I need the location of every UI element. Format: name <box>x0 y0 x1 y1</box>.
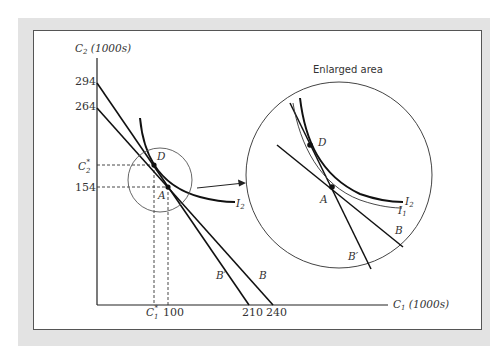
x-tick-c1star: C1* <box>146 304 159 321</box>
x-axis-label: C1 (1000s) <box>393 298 449 312</box>
y-axis-label: C2 (1000s) <box>75 42 131 56</box>
inset-label-b: B <box>394 224 403 236</box>
x-tick-100: 100 <box>163 306 184 319</box>
x-tick-240: 240 <box>266 306 287 319</box>
arrow-head-icon <box>238 180 246 187</box>
arrow-line <box>197 183 244 188</box>
diagram-canvas: C2 (1000s) C1 (1000s) 294 264 C2* 154 C1… <box>0 0 497 354</box>
y-tick-294: 294 <box>75 75 96 88</box>
point-d <box>151 162 156 167</box>
y-tick-c2star: C2* <box>78 158 91 175</box>
inset-line-b <box>277 145 403 247</box>
line-label-b: B <box>258 269 267 281</box>
point-a-label: A <box>157 189 166 201</box>
budget-line-b <box>97 108 273 305</box>
inset-label-i2: I2 <box>404 195 414 209</box>
inset-point-d <box>307 142 313 148</box>
dashed-guides <box>97 165 168 305</box>
inset-point-a <box>329 184 335 190</box>
point-a <box>165 184 170 189</box>
inset-curve-i2 <box>300 98 403 202</box>
curve-label-i2: I2 <box>235 197 245 211</box>
inset-curve-i1 <box>293 103 402 208</box>
enlarged-circle <box>246 82 432 268</box>
line-label-b-prime: B′ <box>215 269 227 281</box>
y-tick-264: 264 <box>75 100 96 113</box>
indifference-curve-i2 <box>140 118 235 202</box>
inset-label-d: D <box>317 136 327 148</box>
inset-label-b-prime: B′ <box>347 250 359 262</box>
inset-title: Enlarged area <box>313 64 383 75</box>
x-tick-210: 210 <box>242 306 263 319</box>
enlarged-content <box>277 98 403 269</box>
point-d-label: D <box>156 150 166 162</box>
inset-label-a: A <box>319 193 328 205</box>
y-tick-154: 154 <box>75 181 96 194</box>
